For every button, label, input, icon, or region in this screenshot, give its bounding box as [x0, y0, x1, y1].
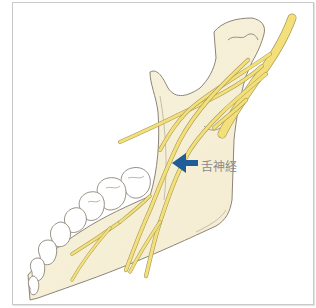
mandible-illustration — [0, 0, 316, 308]
lingual-nerve-label: 舌神経 — [201, 157, 237, 174]
